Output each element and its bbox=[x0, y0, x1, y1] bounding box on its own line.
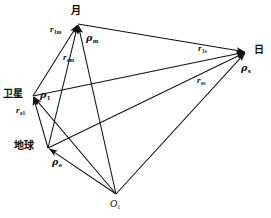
edge-origin-satellite bbox=[34, 97, 116, 194]
vector-label-rho-1: ρ1 bbox=[40, 90, 51, 101]
diagram-canvas bbox=[0, 0, 271, 218]
vector-symbol: ρ bbox=[52, 156, 58, 167]
vector-label-r-es: res bbox=[197, 76, 206, 86]
edge-moon-sun bbox=[78, 24, 245, 52]
vector-subscript: s bbox=[248, 68, 251, 74]
vector-symbol: r bbox=[198, 43, 202, 53]
vector-subscript: e bbox=[59, 162, 63, 168]
vector-label-r-em: rem bbox=[63, 53, 74, 63]
node-label-sun: 日 bbox=[254, 45, 264, 55]
vector-label-r-e1: re1 bbox=[16, 106, 26, 116]
vector-label-rho-m: ρm bbox=[86, 33, 99, 44]
vector-subscript: 1m bbox=[54, 29, 62, 35]
node-label-satellite: 卫星 bbox=[3, 89, 23, 99]
vector-symbol: ρ bbox=[86, 32, 92, 43]
vector-label-rho-s: ρs bbox=[241, 63, 251, 74]
vector-line-group bbox=[33, 24, 245, 194]
node-label-earth: 地球 bbox=[14, 141, 34, 151]
vector-symbol: r bbox=[16, 105, 20, 115]
vector-diagram: 月 日 卫星 地球 O1 ρm ρs ρ1 ρe r1m rem r1s res… bbox=[0, 0, 271, 218]
node-label-moon: 月 bbox=[71, 6, 81, 16]
vector-label-r-1s: r1s bbox=[198, 44, 207, 54]
vector-subscript: e1 bbox=[20, 110, 26, 116]
vector-symbol: r bbox=[63, 52, 67, 62]
vector-subscript: 1s bbox=[202, 48, 207, 54]
vector-subscript: em bbox=[67, 57, 74, 63]
vector-subscript: 1 bbox=[47, 95, 51, 101]
vector-label-rho-e: ρe bbox=[52, 157, 62, 168]
vector-symbol: r bbox=[197, 75, 201, 85]
vector-label-r-1m: r1m bbox=[50, 25, 62, 35]
origin-subscript: 1 bbox=[117, 204, 120, 210]
edge-earth-moon bbox=[48, 25, 78, 148]
vector-subscript: es bbox=[201, 80, 206, 86]
node-label-origin: O1 bbox=[110, 199, 120, 210]
vector-subscript: m bbox=[93, 38, 99, 44]
edge-origin-sun bbox=[116, 53, 245, 194]
vector-symbol: ρ bbox=[241, 62, 247, 73]
vector-symbol: ρ bbox=[40, 89, 46, 100]
edge-origin-moon bbox=[78, 25, 116, 194]
edge-origin-earth bbox=[49, 149, 116, 194]
vector-symbol: r bbox=[50, 24, 54, 34]
edge-earth-sun bbox=[48, 53, 245, 148]
